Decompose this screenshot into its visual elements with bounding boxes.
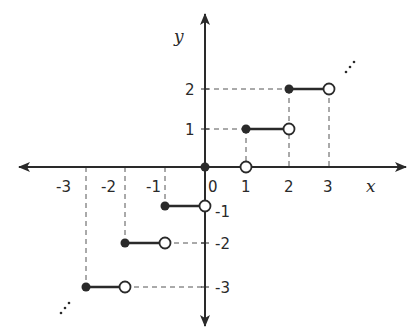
y-tick-label: 1	[185, 121, 195, 139]
x-tick-label: 0	[208, 178, 218, 196]
step-function-graph: y x -3 -2 -1 0 1 2 3 2 1 -1 -2 -3	[0, 0, 419, 336]
closed-dot	[285, 85, 294, 94]
y-tick-label: 2	[185, 81, 195, 99]
y-tick-label: -2	[215, 235, 230, 253]
closed-dot	[82, 283, 91, 292]
y-axis-label: y	[173, 26, 184, 46]
open-circle	[160, 238, 171, 249]
open-circle	[200, 201, 211, 212]
x-tick-labels: -3 -2 -1 0 1 2 3	[56, 178, 333, 196]
closed-dot	[242, 125, 251, 134]
closed-dot	[161, 202, 170, 211]
x-tick-label: -3	[56, 178, 71, 196]
ellipsis-bottom-left-icon	[60, 302, 71, 315]
x-tick-label: -2	[101, 178, 116, 196]
x-tick-label: 2	[284, 178, 294, 196]
x-axis-label: x	[366, 176, 376, 196]
y-tick-label: -3	[215, 279, 230, 297]
closed-dot	[121, 239, 130, 248]
x-tick-label: -1	[146, 178, 161, 196]
open-circle	[284, 124, 295, 135]
open-circle	[324, 84, 335, 95]
x-tick-label: 3	[323, 178, 333, 196]
open-circle	[120, 282, 131, 293]
y-tick-label: -1	[215, 203, 230, 221]
closed-dot	[201, 163, 210, 172]
x-tick-label: 1	[241, 178, 251, 196]
ellipsis-top-right-icon	[345, 61, 356, 74]
open-circle	[241, 162, 252, 173]
